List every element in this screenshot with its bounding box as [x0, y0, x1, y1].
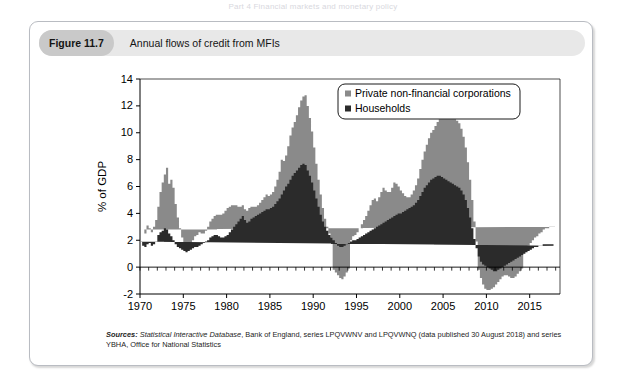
svg-text:8: 8 [127, 153, 133, 165]
running-head: Part 4 Financial markets and monetary po… [0, 0, 626, 11]
figure-title: Annual flows of credit from MFIs [130, 37, 280, 49]
sources-database-name: Statistical Interactive Database [140, 330, 241, 339]
svg-text:1995: 1995 [344, 300, 368, 312]
svg-text:Private non-financial corporat: Private non-financial corporations [355, 87, 511, 99]
sources-line1-rest: , Bank of England, series LPQVWNV and LP… [241, 330, 469, 339]
svg-text:0: 0 [127, 261, 133, 273]
svg-text:2000: 2000 [388, 300, 412, 312]
svg-text:2005: 2005 [431, 300, 455, 312]
chart-area: -202468101214197019751980198519901995200… [39, 62, 585, 330]
svg-text:% of GDP: % of GDP [96, 161, 108, 212]
svg-text:4: 4 [127, 207, 133, 219]
svg-text:1970: 1970 [128, 300, 152, 312]
svg-text:12: 12 [121, 99, 133, 111]
credit-flows-chart: -202468101214197019751980198519901995200… [39, 62, 585, 330]
svg-text:1985: 1985 [258, 300, 282, 312]
svg-text:-2: -2 [123, 288, 133, 300]
svg-text:6: 6 [127, 180, 133, 192]
svg-text:2015: 2015 [517, 300, 541, 312]
svg-text:1990: 1990 [301, 300, 325, 312]
svg-text:1980: 1980 [214, 300, 238, 312]
figure-panel: Figure 11.7 Annual flows of credit from … [29, 21, 593, 366]
svg-text:14: 14 [121, 73, 133, 85]
svg-text:Households: Households [355, 102, 410, 114]
svg-text:1975: 1975 [171, 300, 195, 312]
sources-label: Sources: [106, 330, 138, 339]
svg-text:2010: 2010 [474, 300, 498, 312]
figure-header-bar: Figure 11.7 Annual flows of credit from … [39, 30, 585, 56]
svg-text:10: 10 [121, 126, 133, 138]
sources-note: Sources: Statistical Interactive Databas… [106, 330, 576, 351]
svg-text:2: 2 [127, 234, 133, 246]
figure-number-badge: Figure 11.7 [39, 30, 114, 56]
